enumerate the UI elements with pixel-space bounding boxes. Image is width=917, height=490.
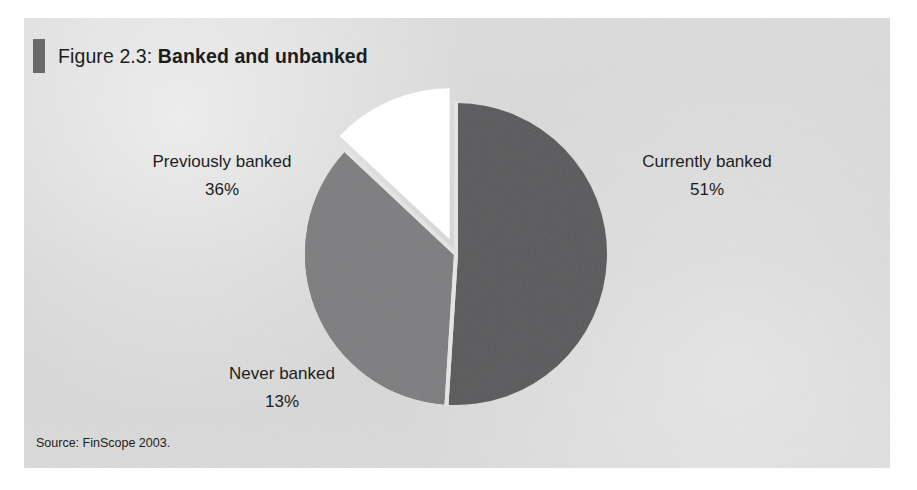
pie-chart: Previously banked 36% Currently banked 5…	[24, 18, 890, 468]
slice-label-value: 51%	[602, 176, 812, 204]
slice-label-name: Never banked	[182, 360, 382, 388]
source-note: Source: FinScope 2003.	[36, 436, 170, 450]
pie-slice-currently-banked	[447, 103, 607, 405]
slice-label-value: 36%	[122, 176, 322, 204]
slice-label-previously-banked: Previously banked 36%	[122, 148, 322, 203]
slice-label-value: 13%	[182, 388, 382, 416]
slice-label-never-banked: Never banked 13%	[182, 360, 382, 415]
figure-panel: Figure 2.3: Banked and unbanked	[24, 18, 890, 468]
figure-root: Figure 2.3: Banked and unbanked	[0, 0, 917, 490]
slice-label-currently-banked: Currently banked 51%	[602, 148, 812, 203]
slice-label-name: Currently banked	[602, 148, 812, 176]
slice-label-name: Previously banked	[122, 148, 322, 176]
